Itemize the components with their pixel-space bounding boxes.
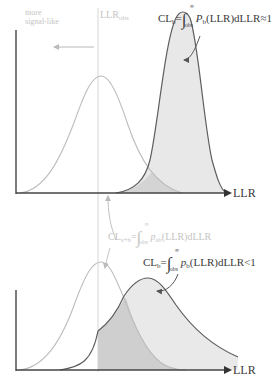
top-clb-formula: CLb=∫∞obsPb(LLR)dLLR≈1	[158, 8, 272, 25]
top-clb-upper: ∞	[190, 3, 194, 9]
more-signal-line2: signal-like	[25, 17, 59, 26]
llr-obs-main: LLR	[100, 9, 119, 20]
top-clb-lhs-sub: b	[172, 18, 176, 26]
bottom-clb-formula: CLb=∫∞obspb(LLR)dLLR<1	[143, 252, 256, 269]
more-signal-line1: more	[25, 8, 59, 17]
llr-obs-sub: obs	[119, 14, 129, 22]
top-clb-lower: obs	[185, 22, 193, 28]
clsb-integrand-sub: sb	[156, 236, 162, 244]
clsb-formula: CLs+b=∫∞obspsb(LLR)dLLR	[108, 226, 211, 243]
more-signal-label: more signal-like	[25, 8, 59, 26]
clsb-lower: obs	[140, 239, 148, 245]
top-clb-rest: (LLR)dLLR≈1	[206, 12, 272, 24]
clsb-upper: ∞	[145, 221, 149, 227]
top-panel	[16, 12, 230, 240]
bottom-clb-lhs: CL	[143, 256, 157, 268]
clsb-integrand: p	[151, 231, 156, 242]
top-clb-lhs: CL	[158, 12, 172, 24]
bottom-clb-lower: obs	[170, 266, 178, 272]
clsb-lhs-sub: s+b	[121, 236, 131, 244]
top-background-fill	[116, 12, 226, 193]
top-clb-integrand-sub: b	[203, 18, 207, 26]
bottom-clb-integrand-sub: b	[186, 262, 190, 270]
bottom-x-axis-label: LLR	[233, 364, 256, 376]
top-clb-integrand: P	[196, 12, 203, 24]
bottom-clb-rest: (LLR)dLLR<1	[190, 256, 256, 268]
llr-obs-label: LLRobs	[100, 10, 129, 20]
clsb-rest: (LLR)dLLR	[162, 231, 211, 242]
clsb-lhs: CL	[108, 231, 121, 242]
top-x-axis-label: LLR	[233, 187, 256, 199]
bottom-clb-lhs-sub: b	[157, 262, 161, 270]
bottom-clb-upper: ∞	[175, 247, 179, 253]
